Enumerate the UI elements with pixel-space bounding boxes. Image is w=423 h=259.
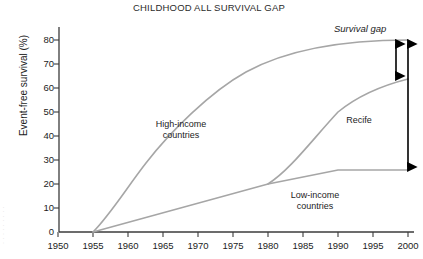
series-recife: [268, 79, 408, 184]
annotation-high-income-countries: High-income countries: [143, 119, 219, 140]
series-high-income-countries: [93, 40, 408, 232]
annotation-survival-gap: Survival gap: [334, 24, 386, 35]
annotation-high-income-line2: countries: [143, 130, 219, 141]
annotation-low-income-line1: Low-income: [277, 190, 353, 201]
y-tick-marks: [54, 40, 59, 208]
series-low-income-countries: [93, 170, 408, 232]
x-tick-marks: [58, 232, 408, 237]
annotation-low-income-line2: countries: [277, 201, 353, 212]
annotation-recife: Recife: [337, 115, 381, 126]
annotation-high-income-line1: High-income: [143, 119, 219, 130]
annotation-low-income-countries: Low-income countries: [277, 190, 353, 211]
